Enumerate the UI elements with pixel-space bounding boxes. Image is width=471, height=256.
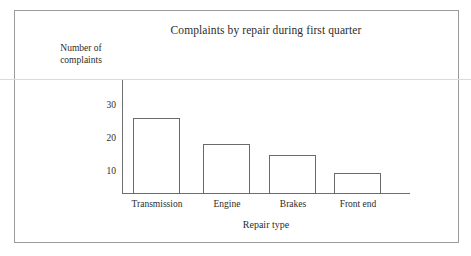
y-axis-line (122, 80, 123, 194)
y-tick-label-20: 20 (90, 133, 116, 143)
x-category-label-transmission: Transmission (121, 199, 193, 209)
x-category-label-engine: Engine (191, 199, 263, 209)
x-category-label-brakes: Brakes (257, 199, 329, 209)
x-axis-title: Repair type (122, 219, 410, 230)
bar-transmission (133, 118, 180, 194)
figure-container: Complaints by repair during first quarte… (0, 0, 471, 256)
bar-engine (203, 144, 250, 194)
y-tick-label-10: 10 (90, 166, 116, 176)
bar-brakes (269, 155, 316, 194)
bar-front-end (334, 173, 381, 194)
y-tick-label-30: 30 (90, 100, 116, 110)
plot-area: 30 20 10 Transmission Engine Brakes Fron… (0, 0, 471, 256)
x-category-label-front-end: Front end (322, 199, 394, 209)
